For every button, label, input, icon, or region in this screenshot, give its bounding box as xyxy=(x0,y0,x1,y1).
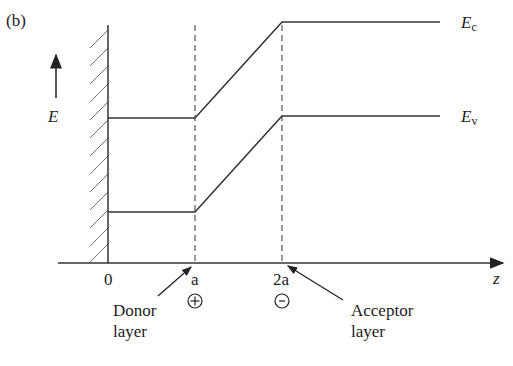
acceptor-arrow-icon xyxy=(288,266,343,300)
energy-axis-label: E xyxy=(47,107,59,126)
donor-arrow-icon xyxy=(158,267,191,296)
wall-hatching xyxy=(90,30,108,262)
valence-band-label: Ev xyxy=(460,107,477,128)
band-diagram-figure: (b) E Ec Ev z 0 a 2a xyxy=(0,0,513,366)
donor-label-line2: layer xyxy=(113,322,147,341)
positive-charge-icon xyxy=(188,294,202,308)
tick-label-2a: 2a xyxy=(273,270,290,289)
donor-label-line1: Donor xyxy=(113,301,157,320)
conduction-band-line xyxy=(108,22,440,118)
negative-charge-icon xyxy=(275,294,289,308)
acceptor-label-line2: layer xyxy=(351,322,385,341)
z-axis-label: z xyxy=(492,269,500,288)
acceptor-label-line1: Acceptor xyxy=(351,301,414,320)
tick-label-0: 0 xyxy=(104,270,113,289)
band-diagram-svg: (b) E Ec Ev z 0 a 2a xyxy=(0,0,513,366)
panel-label: (b) xyxy=(6,11,26,30)
conduction-band-label: Ec xyxy=(460,13,477,34)
valence-band-line xyxy=(108,116,440,212)
tick-label-a: a xyxy=(191,270,199,289)
